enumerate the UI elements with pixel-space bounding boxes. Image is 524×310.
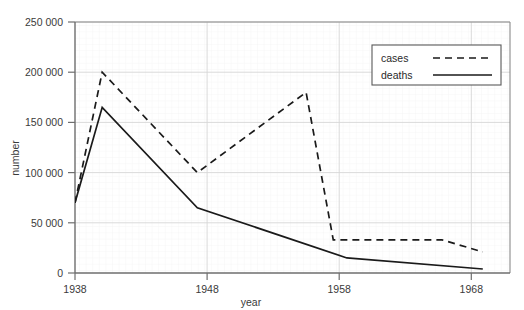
ytick-label-50000: 50 000 bbox=[31, 217, 63, 229]
xtick-label-1938: 1938 bbox=[63, 283, 87, 295]
ytick-label-0: 0 bbox=[57, 267, 63, 279]
xtick-label-1968: 1968 bbox=[460, 283, 484, 295]
legend-label-cases: cases bbox=[381, 52, 408, 64]
ytick-label-250000: 250 000 bbox=[25, 16, 63, 28]
ytick-label-200000: 200 000 bbox=[25, 66, 63, 78]
ytick-label-150000: 150 000 bbox=[25, 116, 63, 128]
legend[interactable]: cases deaths bbox=[372, 45, 501, 85]
chart-container: 250 000 200 000 150 000 100 000 50 000 0… bbox=[0, 0, 524, 310]
legend-label-deaths: deaths bbox=[381, 69, 413, 81]
xtick-label-1948: 1948 bbox=[195, 283, 219, 295]
ytick-label-100000: 100 000 bbox=[25, 167, 63, 179]
y-axis-title: number bbox=[9, 140, 21, 176]
x-axis-title: year bbox=[241, 296, 262, 308]
xtick-label-1958: 1958 bbox=[328, 283, 352, 295]
line-chart: 250 000 200 000 150 000 100 000 50 000 0… bbox=[0, 0, 524, 310]
